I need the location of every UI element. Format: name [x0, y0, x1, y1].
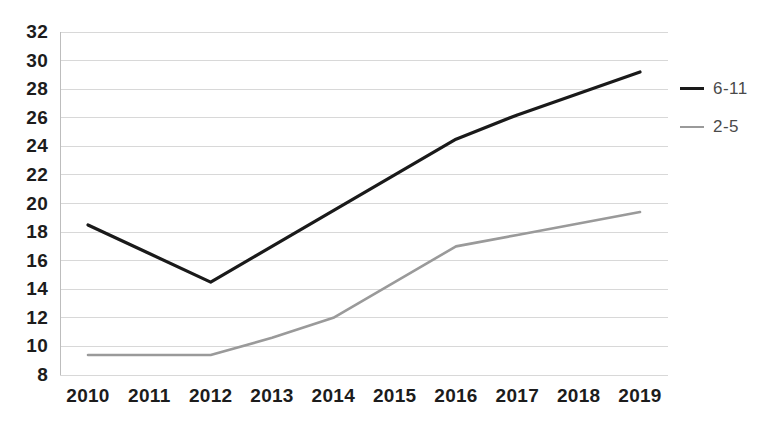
y-axis-tick-label: 16	[0, 251, 48, 270]
x-axis-tick-label: 2015	[360, 386, 430, 405]
x-axis-tick-label: 2018	[544, 386, 614, 405]
y-axis-tick-label: 24	[0, 136, 48, 155]
gridlines	[60, 32, 668, 375]
y-axis-tick-label: 18	[0, 222, 48, 241]
y-axis-tick-label: 10	[0, 336, 48, 355]
x-axis-tick-label: 2011	[114, 386, 184, 405]
x-axis-tick-label: 2017	[482, 386, 552, 405]
plot-area	[0, 0, 757, 421]
x-axis-tick-label: 2014	[298, 386, 368, 405]
x-axis-tick-label: 2010	[53, 386, 123, 405]
y-axis-tick-label: 26	[0, 108, 48, 127]
x-axis-tick-label: 2012	[176, 386, 246, 405]
y-axis-tick-label: 32	[0, 22, 48, 41]
legend-label: 6-11	[713, 80, 748, 97]
series-line	[88, 212, 640, 355]
y-axis-tick-label: 22	[0, 165, 48, 184]
legend-item[interactable]: 6-11	[680, 80, 748, 97]
legend-label: 2-5	[713, 118, 739, 135]
legend-line-icon	[680, 126, 704, 128]
x-axis-tick-label: 2019	[605, 386, 675, 405]
y-axis-tick-label: 12	[0, 308, 48, 327]
y-axis-tick-label: 8	[0, 365, 48, 384]
data-series	[88, 72, 640, 355]
x-axis-tick-label: 2016	[421, 386, 491, 405]
series-line	[88, 72, 640, 282]
x-axis-tick-label: 2013	[237, 386, 307, 405]
y-axis-tick-label: 30	[0, 51, 48, 70]
legend-item[interactable]: 2-5	[680, 118, 739, 135]
legend-line-icon	[680, 87, 704, 90]
y-axis-tick-label: 20	[0, 194, 48, 213]
y-axis-tick-label: 14	[0, 279, 48, 298]
line-chart: 3230282624222018161412108 20102011201220…	[0, 0, 757, 421]
y-axis-tick-label: 28	[0, 79, 48, 98]
